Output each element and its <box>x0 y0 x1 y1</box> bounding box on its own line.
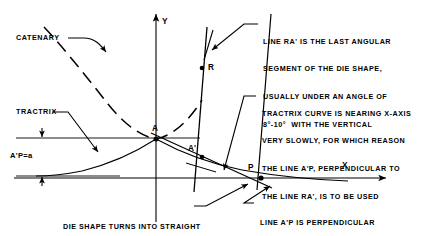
annotation-perpendicular: LINE A'P IS PERPENDICULAR TO THE LINE RA… <box>260 199 375 236</box>
annotation-tractrix-row-1: TRACTRIX CURVE IS NEARING X-AXIS <box>262 109 411 118</box>
leader-die-shape-note <box>194 184 248 206</box>
catenary-curve <box>44 27 202 139</box>
annotation-tractrix-row-3: THE LINE A'P, PERPENDICULAR TO <box>262 164 411 173</box>
leader-catenary <box>68 38 106 52</box>
leader-lines <box>52 24 270 206</box>
point-label-A-prime: A' <box>188 144 196 153</box>
annotation-tractrix-row-2: VERY SLOWLY, FOR WHICH REASON <box>262 136 411 145</box>
leader-line-ra-note <box>212 24 258 50</box>
dimension-label-ap: A'P=a <box>10 151 33 160</box>
annotation-line-ra-row-2: SEGMENT OF THE DIE SHAPE, <box>263 64 391 73</box>
line-a-prime-p <box>151 133 272 188</box>
point-marker-R <box>200 66 205 71</box>
point-label-A: A <box>152 124 158 133</box>
leader-a-prime-pointer <box>186 163 216 172</box>
annotation-die-shape-row-1: DIE SHAPE TURNS INTO STRAIGHT <box>63 222 201 231</box>
curve-label-tractrix: TRACTRIX <box>16 107 57 116</box>
point-label-P: P <box>248 163 253 172</box>
point-marker-Ap <box>200 155 205 160</box>
annotation-die-shape: DIE SHAPE TURNS INTO STRAIGHT VERTICAL L… <box>63 203 201 236</box>
annotation-perpendicular-row-1: LINE A'P IS PERPENDICULAR <box>260 218 375 227</box>
tractrix-curve-left <box>36 139 156 176</box>
y-axis-label: Y <box>162 16 168 26</box>
leader-tractrix <box>52 112 98 152</box>
construction-lines <box>16 138 200 176</box>
leader-tractrix-note <box>224 96 256 170</box>
point-marker-A <box>154 137 159 142</box>
curve-label-catenary: CATENARY <box>16 33 60 42</box>
point-label-R: R <box>208 63 214 72</box>
annotation-line-ra-row-1: LINE RA' IS THE LAST ANGULAR <box>263 37 391 46</box>
figure-page: X Y A A' R P CATENARY TRACTRIX A'P=a LIN… <box>0 0 442 236</box>
